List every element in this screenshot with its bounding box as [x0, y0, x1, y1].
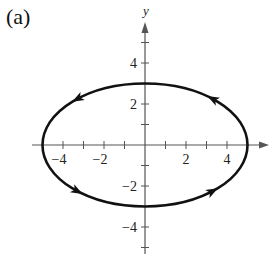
direction-arrow-icon	[70, 184, 85, 198]
y-axis-arrow-icon	[142, 22, 149, 33]
y-tick-label: −4	[122, 220, 137, 235]
chart-plot: −4−22442−2−4y	[0, 0, 279, 265]
x-tick-label: 2	[183, 152, 190, 167]
direction-arrow-icon	[205, 184, 220, 198]
y-axis-label: y	[141, 3, 149, 18]
x-tick-label: −4	[52, 152, 67, 167]
direction-arrow-icon	[70, 92, 85, 106]
x-tick-label: 4	[224, 152, 231, 167]
y-tick-label: 4	[130, 56, 137, 71]
x-axis-arrow-icon	[259, 142, 269, 149]
direction-arrow-icon	[205, 92, 220, 106]
y-tick-label: 2	[130, 97, 137, 112]
x-tick-label: −2	[93, 152, 108, 167]
y-tick-label: −2	[122, 179, 137, 194]
